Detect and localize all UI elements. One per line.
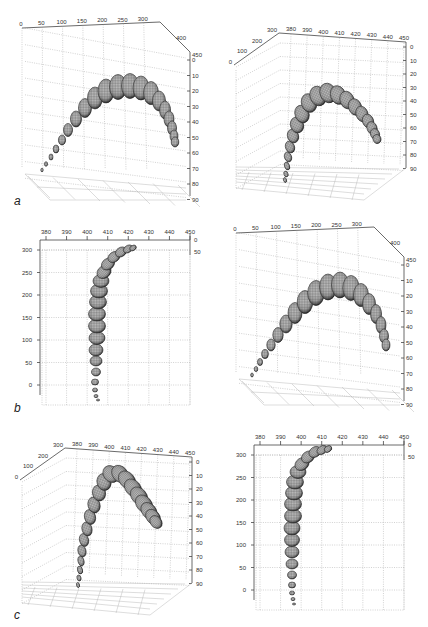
z-tick-label: 80	[410, 152, 417, 158]
x-tick-label: 430	[144, 229, 155, 235]
z-tick-label: 30	[406, 309, 413, 315]
x-tick-label: 380	[41, 229, 52, 235]
x-tick-label: 0	[19, 21, 23, 27]
y-tick-label: 300	[53, 442, 64, 448]
ellipsoid-segment	[41, 168, 43, 172]
y-tick-label: 50	[25, 360, 32, 366]
panel-c-right: 3803904004104204304404500501001502002503…	[236, 434, 415, 610]
y-tick-label: 300	[22, 247, 33, 253]
z-tick-label: 40	[410, 98, 417, 104]
z-tick-label: 20	[410, 71, 417, 77]
y-tick-label: 250	[22, 270, 33, 276]
x-tick-label: 430	[153, 447, 164, 453]
x-tick-label: 200	[97, 17, 108, 23]
z-tick-label: 50	[408, 454, 415, 460]
ellipsoid-segment	[382, 339, 390, 351]
z-tick-label: 70	[410, 139, 417, 145]
y-tick-label: 100	[237, 48, 248, 54]
z-tick-label: 50	[196, 527, 203, 533]
y-tick-label: 100	[22, 337, 33, 343]
y-tick-label: 0	[229, 59, 233, 65]
x-tick-label: 440	[169, 449, 180, 455]
z-tick-label: 50	[192, 135, 199, 141]
y-tick-label: 300	[267, 27, 278, 33]
x-tick-label: 420	[351, 31, 362, 37]
z-tick-label: 10	[196, 473, 203, 479]
ellipsoid-segment	[267, 339, 275, 351]
x-tick-label: 420	[137, 446, 148, 452]
z-tick-label: 50	[194, 249, 201, 255]
z-tick-label: 10	[192, 73, 199, 79]
z-tick-label: 0	[408, 442, 412, 448]
z-tick-label: 60	[410, 125, 417, 131]
y-tick-label: 400	[176, 35, 187, 41]
z-tick-label: 40	[196, 513, 203, 519]
x-tick-label: 100	[57, 19, 68, 25]
x-tick-label: 420	[123, 229, 134, 235]
ellipsoid-segment	[293, 603, 296, 605]
y-tick-label: 200	[236, 497, 247, 503]
ellipsoid-segment	[251, 373, 254, 377]
x-tick-label: 200	[311, 222, 322, 228]
ellipsoid-segment	[92, 368, 101, 376]
z-tick-label: 60	[192, 150, 199, 156]
x-tick-label: 400	[318, 29, 329, 35]
ellipsoid-segment	[77, 555, 85, 566]
ellipsoid-segment	[89, 332, 105, 345]
panel-a-left: 0501001502002503004004500102030405060708…	[19, 16, 202, 207]
ellipsoid-segment	[90, 356, 102, 366]
ellipsoid-segment	[76, 582, 80, 588]
x-tick-label: 390	[88, 442, 99, 448]
y-tick-label: 200	[252, 38, 263, 44]
ellipsoid-segment	[283, 161, 290, 170]
z-tick-label: 70	[406, 371, 413, 377]
ellipsoid-segment	[288, 571, 297, 579]
x-tick-label: 380	[72, 441, 83, 447]
x-tick-label: 440	[164, 229, 175, 235]
y-tick-label: 100	[236, 542, 247, 548]
panel-b-right: 0501001502002503004004500102030405060708…	[233, 221, 416, 412]
x-tick-label: 300	[138, 16, 149, 22]
x-tick-label: 410	[334, 30, 345, 36]
x-tick-label: 430	[367, 32, 378, 38]
ellipsoid-segment	[64, 124, 73, 137]
z-tick-label: 80	[192, 181, 199, 187]
z-tick-label: 40	[406, 324, 413, 330]
x-tick-label: 380	[286, 26, 297, 32]
z-tick-label: 20	[192, 88, 199, 94]
panel-label-c: c	[14, 608, 20, 622]
x-tick-label: 400	[296, 434, 307, 440]
ellipsoid-segment	[290, 591, 295, 595]
y-tick-label: 0	[243, 587, 247, 593]
x-tick-label: 50	[252, 225, 259, 231]
ellipsoid-segment	[97, 399, 100, 401]
x-tick-label: 420	[337, 434, 348, 440]
panel-b-left: 3803904004104204304404500501001502002503…	[22, 229, 201, 405]
x-tick-label: 150	[77, 18, 88, 24]
ellipsoid-segment	[93, 388, 98, 392]
ellipsoid-segment	[285, 546, 299, 558]
x-tick-label: 150	[291, 223, 302, 229]
z-tick-label: 90	[410, 166, 417, 172]
ellipsoid-segment	[89, 344, 103, 356]
z-tick-label: 30	[410, 85, 417, 91]
z-tick-label: 20	[406, 293, 413, 299]
z-tick-label: 90	[406, 402, 413, 408]
ellipsoid-segment	[53, 145, 59, 153]
ellipsoid-segment	[254, 367, 258, 372]
x-tick-label: 440	[378, 434, 389, 440]
panel-a-right: 0100200300380390400410420430440450010203…	[229, 26, 418, 200]
panel-c-left: 0100200300380390400410420430440450010203…	[15, 441, 204, 615]
ellipsoid-segment	[45, 162, 48, 167]
ellipsoid-segment	[94, 395, 98, 398]
ellipsoid-segment	[258, 359, 263, 366]
x-tick-label: 450	[185, 229, 196, 235]
x-tick-label: 0	[233, 226, 237, 232]
x-tick-label: 450	[399, 434, 410, 440]
z-tick-label: 10	[410, 58, 417, 64]
x-tick-label: 50	[38, 20, 45, 26]
z-tick-label: 70	[196, 554, 203, 560]
y-tick-label: 300	[236, 452, 247, 458]
z-tick-label: 40	[192, 119, 199, 125]
y-tick-label: 100	[23, 463, 34, 469]
